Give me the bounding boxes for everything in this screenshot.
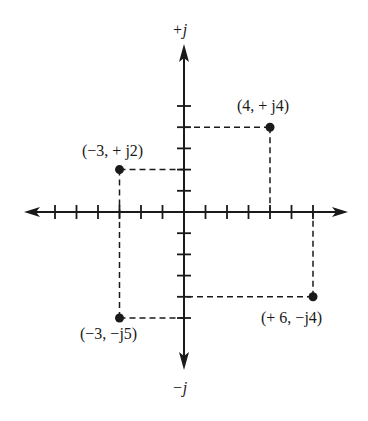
complex-plane-canvas bbox=[0, 0, 368, 421]
data-point-marker bbox=[115, 314, 124, 323]
data-point-marker bbox=[115, 165, 124, 174]
data-point-marker bbox=[266, 123, 275, 132]
point-label-neg3-neg5: (−3, −j5) bbox=[80, 326, 137, 342]
point-label-4-pos4: (4, + j4) bbox=[237, 98, 289, 114]
data-point-marker bbox=[309, 292, 318, 301]
point-label-6-neg4: (+ 6, −j4) bbox=[261, 310, 322, 326]
complex-plane-diagram: +j −j (−3, + j2) (4, + j4) (−3, −j5) (+ … bbox=[0, 0, 368, 421]
imag-positive-axis-label: +j bbox=[172, 22, 187, 38]
point-label-neg3-pos2: (−3, + j2) bbox=[82, 143, 143, 159]
imag-negative-axis-label: −j bbox=[172, 380, 187, 396]
